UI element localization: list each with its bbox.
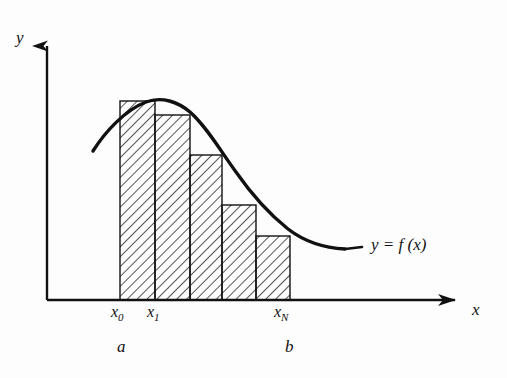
riemann-bar xyxy=(155,115,190,300)
tick-label-xn-sub: N xyxy=(281,311,288,323)
tick-label-x0: x0 xyxy=(111,303,124,323)
interval-lower-bound-label: a xyxy=(117,337,126,357)
interval-upper-bound-label: b xyxy=(285,337,294,357)
curve-label-leader xyxy=(345,247,362,249)
x-axis-label: x xyxy=(472,300,480,320)
y-axis-label: y xyxy=(16,28,24,48)
figure-canvas xyxy=(0,0,507,378)
riemann-bar xyxy=(256,236,290,300)
riemann-bar xyxy=(222,205,256,300)
riemann-bar xyxy=(120,101,155,300)
riemann-sum-figure: y x x0 x1 xN a b y = f (x) xyxy=(0,0,507,378)
curve-equation-label: y = f (x) xyxy=(371,235,426,255)
tick-label-x0-sub: 0 xyxy=(118,311,124,323)
tick-label-x1-sub: 1 xyxy=(154,311,160,323)
tick-label-x1: x1 xyxy=(147,303,160,323)
tick-label-xn: xN xyxy=(274,303,288,323)
riemann-bar xyxy=(190,155,222,300)
